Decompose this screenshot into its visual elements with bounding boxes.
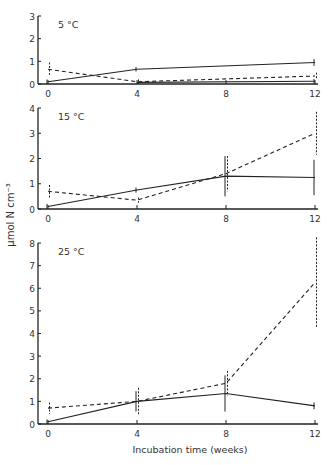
x-tick-label: 4 [134,429,140,439]
x-tick-label: 0 [45,89,51,99]
x-tick-label: 8 [223,214,229,224]
x-tick-label: 12 [309,429,320,439]
panel-title: 25 °C [58,246,85,257]
y-tick-label: 3 [29,352,35,362]
x-tick-label: 8 [223,429,229,439]
y-tick-label: 6 [29,284,35,294]
series-solid [48,62,315,81]
panel-title: 15 °C [58,111,85,122]
y-tick-label: 2 [29,34,35,44]
x-tick-label: 12 [309,89,320,99]
series-dashed [48,69,315,81]
panel-1: 012340481215 °C [29,104,320,225]
x-tick-label: 8 [223,89,229,99]
y-tick-label: 3 [29,129,35,139]
y-tick-label: 2 [29,374,35,384]
y-tick-label: 1 [29,179,35,189]
y-tick-label: 5 [29,306,35,316]
y-tick-label: 0 [29,420,35,430]
chart-svg: 0123048125 °C012340481215 °C012345678048… [0,0,336,465]
x-tick-label: 12 [309,214,320,224]
panels: 0123048125 °C012340481215 °C012345678048… [29,12,320,440]
y-tick-label: 1 [29,397,35,407]
panel-0: 0123048125 °C [29,12,320,100]
series-solid [48,176,315,206]
series-solid [48,393,315,421]
panel-title: 5 °C [58,19,79,30]
y-tick-label: 0 [29,205,35,215]
x-axis-label: Incubation time (weeks) [133,444,248,455]
y-tick-label: 3 [29,12,35,22]
y-tick-label: 2 [29,154,35,164]
y-tick-label: 4 [29,329,35,339]
y-tick-label: 4 [29,104,35,114]
series-dashed [48,283,315,409]
y-axis-label: µmol N cm⁻³ [5,183,16,246]
y-tick-label: 0 [29,80,35,90]
figure: 0123048125 °C012340481215 °C012345678048… [0,0,336,465]
series-dashed [48,133,315,200]
x-tick-label: 0 [45,214,51,224]
y-tick-label: 7 [29,261,35,271]
y-tick-label: 8 [29,239,35,249]
x-tick-label: 0 [45,429,51,439]
y-tick-label: 1 [29,57,35,67]
x-tick-label: 4 [134,89,140,99]
series-baseline-solid [137,81,315,82]
panel-2: 0123456780481225 °C [29,237,320,439]
x-tick-label: 4 [134,214,140,224]
